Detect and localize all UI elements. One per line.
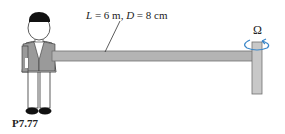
diameter-symbol: D bbox=[126, 9, 134, 21]
dimension-label: L = 6 m, D = 8 cm bbox=[86, 9, 168, 21]
figure-label: P7.77 bbox=[12, 117, 38, 129]
rotation-symbol: Ω bbox=[253, 23, 262, 38]
person-figure bbox=[22, 12, 56, 115]
leader-line bbox=[105, 21, 120, 52]
horizontal-rod bbox=[52, 51, 254, 61]
diameter-value: = 8 cm bbox=[134, 9, 167, 21]
length-value: = 6 m, bbox=[92, 9, 126, 21]
